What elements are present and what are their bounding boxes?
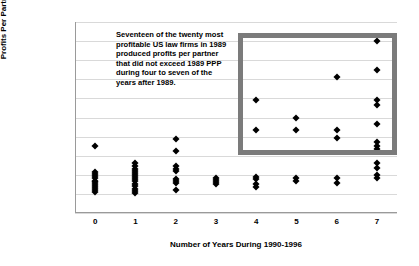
x-tick-label: 1 <box>123 217 147 226</box>
gridline <box>75 213 397 214</box>
highlight-region-box <box>238 33 397 155</box>
x-axis-title: Number of Years During 1990-1996 <box>75 240 397 249</box>
data-point <box>212 181 219 188</box>
x-tick-label: 6 <box>325 217 349 226</box>
x-tick-label: 5 <box>284 217 308 226</box>
x-tick-label: 0 <box>83 217 107 226</box>
x-tick-label: 4 <box>244 217 268 226</box>
annotation-text: Seventeen of the twenty most profitable … <box>116 30 234 88</box>
scatter-chart: Profits Per Partner, 1989 $0$200,000$400… <box>0 0 419 266</box>
x-tick-label: 7 <box>365 217 389 226</box>
x-tick-label: 3 <box>204 217 228 226</box>
gridline <box>75 156 397 157</box>
data-point <box>172 187 179 194</box>
gridline <box>75 175 397 176</box>
data-point <box>172 147 179 154</box>
x-axis-line <box>75 212 397 213</box>
data-point <box>92 143 99 150</box>
y-axis-line <box>75 22 76 213</box>
gridline <box>75 22 397 23</box>
x-tick-label: 2 <box>164 217 188 226</box>
data-point <box>333 180 340 187</box>
gridline <box>75 194 397 195</box>
